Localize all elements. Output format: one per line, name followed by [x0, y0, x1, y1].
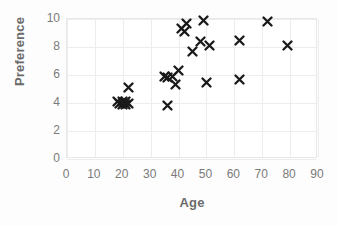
data-point-marker: [179, 26, 190, 37]
data-point-marker: [176, 23, 187, 34]
data-point-marker: [282, 40, 293, 51]
gridline-horizontal: [67, 19, 316, 20]
scatter-chart: Preference 0246810 0102030405060708090 A…: [0, 0, 338, 226]
y-tick-label: 8: [26, 39, 60, 53]
data-point-marker: [195, 36, 206, 47]
gridline-vertical: [262, 19, 263, 157]
data-point-marker: [234, 35, 245, 46]
gridline-vertical: [179, 19, 180, 157]
data-point-marker: [120, 99, 131, 110]
y-tick-label: 6: [26, 67, 60, 81]
data-point-marker: [159, 71, 170, 82]
gridline-horizontal: [67, 75, 316, 76]
data-point-marker: [198, 15, 209, 26]
gridline-vertical: [290, 19, 291, 157]
y-tick-label: 10: [26, 11, 60, 25]
x-axis-title: Age: [66, 195, 318, 210]
plot-area: [66, 18, 317, 158]
data-point-marker: [170, 79, 181, 90]
y-tick-label: 0: [26, 151, 60, 165]
gridline-horizontal: [67, 47, 316, 48]
gridline-horizontal: [67, 159, 316, 160]
data-point-marker: [204, 40, 215, 51]
data-point-marker: [112, 96, 123, 107]
y-tick-label: 2: [26, 123, 60, 137]
y-tick-label: 4: [26, 95, 60, 109]
gridline-horizontal: [67, 103, 316, 104]
y-axis-title: Preference: [12, 2, 27, 102]
gridline-vertical: [95, 19, 96, 157]
data-point-marker: [162, 72, 173, 83]
x-tick-label: 90: [297, 167, 337, 181]
data-point-marker: [167, 71, 178, 82]
gridline-horizontal: [67, 131, 316, 132]
data-point-marker: [120, 96, 131, 107]
gridline-vertical: [206, 19, 207, 157]
gridline-vertical: [123, 19, 124, 157]
gridline-vertical: [234, 19, 235, 157]
gridline-vertical: [318, 19, 319, 157]
gridline-vertical: [67, 19, 68, 157]
data-point-marker: [262, 16, 273, 27]
data-point-marker: [162, 100, 173, 111]
data-point-marker: [123, 82, 134, 93]
gridline-vertical: [151, 19, 152, 157]
